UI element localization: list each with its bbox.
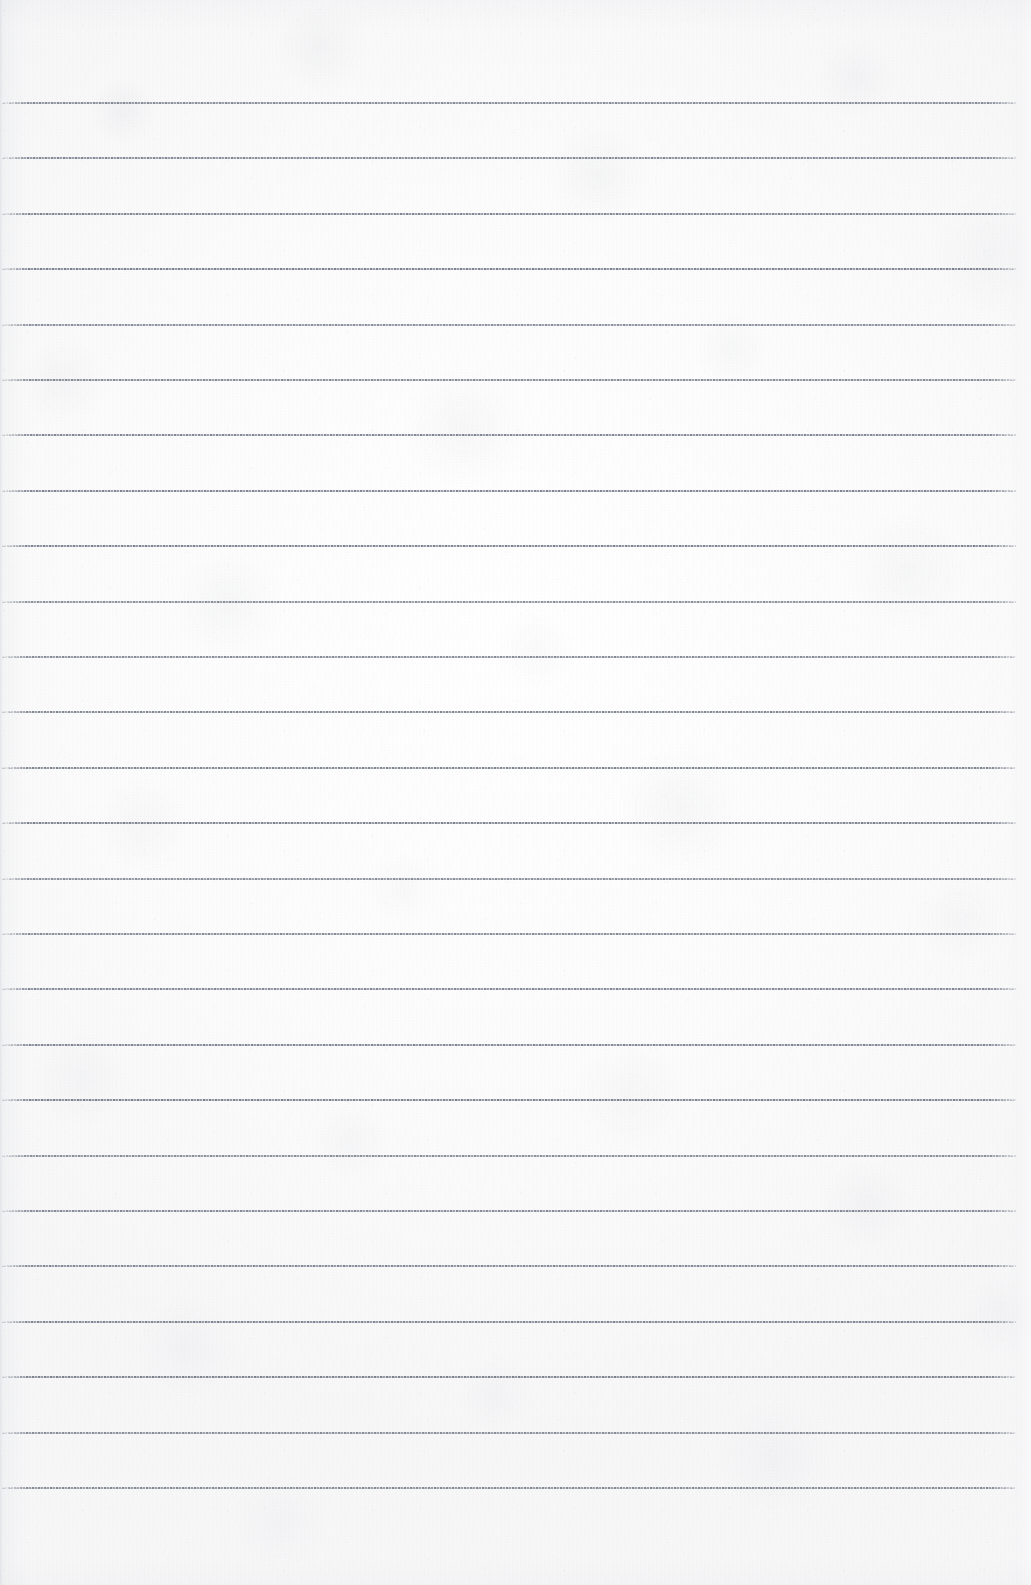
rule-line-right-fade bbox=[990, 1265, 1016, 1267]
rule-line-right-fade bbox=[990, 767, 1016, 769]
rule-line bbox=[2, 379, 1016, 381]
rule-line-left-fade bbox=[2, 822, 28, 824]
rule-line-right-fade bbox=[990, 1487, 1016, 1489]
rule-line-right-fade bbox=[990, 324, 1016, 326]
rule-line bbox=[2, 1487, 1016, 1489]
rule-line-right-fade bbox=[990, 711, 1016, 713]
rule-line bbox=[2, 434, 1016, 436]
rule-line-left-fade bbox=[2, 1044, 28, 1046]
rule-line-left-fade bbox=[2, 601, 28, 603]
rule-line-right-fade bbox=[990, 490, 1016, 492]
rule-line-left-fade bbox=[2, 767, 28, 769]
rule-line bbox=[2, 933, 1016, 935]
rule-line-right-fade bbox=[990, 933, 1016, 935]
rule-line-right-fade bbox=[990, 878, 1016, 880]
rule-line-right-fade bbox=[990, 656, 1016, 658]
rule-line-left-fade bbox=[2, 656, 28, 658]
rule-line-left-fade bbox=[2, 1376, 28, 1378]
rule-line-right-fade bbox=[990, 1321, 1016, 1323]
rule-line-right-fade bbox=[990, 822, 1016, 824]
rule-line-left-fade bbox=[2, 878, 28, 880]
rule-line bbox=[2, 767, 1016, 769]
rule-line bbox=[2, 268, 1016, 270]
rule-line-right-fade bbox=[990, 268, 1016, 270]
rule-line bbox=[2, 1321, 1016, 1323]
rule-line-left-fade bbox=[2, 1155, 28, 1157]
rule-line bbox=[2, 656, 1016, 658]
rule-line-left-fade bbox=[2, 324, 28, 326]
rule-line-right-fade bbox=[990, 1210, 1016, 1212]
rule-line bbox=[2, 601, 1016, 603]
rule-line bbox=[2, 490, 1016, 492]
rule-line bbox=[2, 1099, 1016, 1101]
rule-line-left-fade bbox=[2, 157, 28, 159]
rule-line-right-fade bbox=[990, 1376, 1016, 1378]
page-right-edge bbox=[1016, 0, 1031, 1585]
rule-line-left-fade bbox=[2, 933, 28, 935]
rule-line bbox=[2, 878, 1016, 880]
rule-line bbox=[2, 1155, 1016, 1157]
rule-line-left-fade bbox=[2, 1487, 28, 1489]
rule-line-right-fade bbox=[990, 988, 1016, 990]
rule-line-right-fade bbox=[990, 545, 1016, 547]
rule-line-right-fade bbox=[990, 434, 1016, 436]
rule-line-right-fade bbox=[990, 379, 1016, 381]
rule-line bbox=[2, 213, 1016, 215]
rule-line bbox=[2, 1265, 1016, 1267]
rule-line-left-fade bbox=[2, 102, 28, 104]
ruled-lines-group bbox=[0, 0, 1031, 1585]
rule-line bbox=[2, 1210, 1016, 1212]
rule-line-left-fade bbox=[2, 1432, 28, 1434]
rule-line-left-fade bbox=[2, 711, 28, 713]
rule-line bbox=[2, 324, 1016, 326]
rule-line bbox=[2, 822, 1016, 824]
rule-line-left-fade bbox=[2, 1210, 28, 1212]
rule-line-left-fade bbox=[2, 545, 28, 547]
scanned-page bbox=[0, 0, 1031, 1585]
rule-line-right-fade bbox=[990, 157, 1016, 159]
rule-line-right-fade bbox=[990, 1044, 1016, 1046]
rule-line bbox=[2, 988, 1016, 990]
rule-line-left-fade bbox=[2, 1265, 28, 1267]
rule-line bbox=[2, 1376, 1016, 1378]
rule-line-left-fade bbox=[2, 988, 28, 990]
rule-line-left-fade bbox=[2, 213, 28, 215]
rule-line-right-fade bbox=[990, 601, 1016, 603]
rule-line-right-fade bbox=[990, 1099, 1016, 1101]
rule-line-left-fade bbox=[2, 379, 28, 381]
rule-line-left-fade bbox=[2, 1321, 28, 1323]
rule-line bbox=[2, 545, 1016, 547]
rule-line-left-fade bbox=[2, 490, 28, 492]
rule-line-right-fade bbox=[990, 1432, 1016, 1434]
rule-line-right-fade bbox=[990, 213, 1016, 215]
page-left-edge bbox=[0, 0, 3, 1585]
rule-line-right-fade bbox=[990, 102, 1016, 104]
rule-line-left-fade bbox=[2, 1099, 28, 1101]
rule-line-left-fade bbox=[2, 268, 28, 270]
rule-line-right-fade bbox=[990, 1155, 1016, 1157]
rule-line bbox=[2, 1044, 1016, 1046]
rule-line-left-fade bbox=[2, 434, 28, 436]
rule-line bbox=[2, 1432, 1016, 1434]
rule-line bbox=[2, 711, 1016, 713]
rule-line bbox=[2, 157, 1016, 159]
rule-line bbox=[2, 102, 1016, 104]
